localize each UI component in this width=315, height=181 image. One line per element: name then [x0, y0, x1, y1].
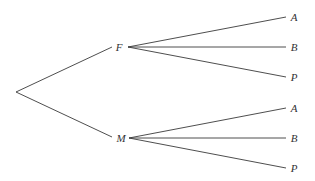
edge-m-a — [129, 108, 286, 138]
leaf-label-m-p: P — [291, 163, 298, 174]
node-label-m: M — [116, 133, 125, 144]
leaf-label-f-b: B — [291, 42, 298, 53]
edge-m-p — [129, 138, 286, 168]
tree-diagram — [0, 0, 315, 181]
leaf-label-m-b: B — [291, 133, 298, 144]
leaf-label-f-a: A — [291, 12, 298, 23]
node-label-f: F — [116, 42, 123, 53]
edge-root-f — [16, 47, 112, 92]
edge-f-a — [128, 17, 286, 47]
leaf-label-m-a: A — [291, 103, 298, 114]
edge-root-m — [16, 92, 112, 137]
edge-f-p — [128, 47, 286, 77]
leaf-label-f-p: P — [291, 72, 298, 83]
